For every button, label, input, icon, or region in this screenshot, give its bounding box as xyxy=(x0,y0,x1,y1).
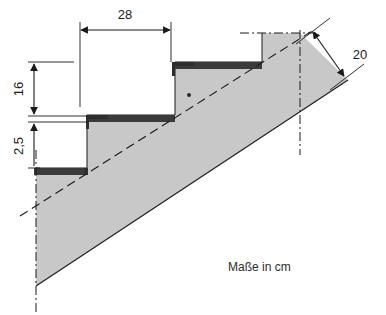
reference-point-marker xyxy=(187,93,191,97)
dimension-step-rise: 16 xyxy=(11,62,88,116)
riser-edge-3 xyxy=(172,62,175,76)
extension-line-20-upper xyxy=(296,18,330,44)
dimension-label-20: 20 xyxy=(353,47,367,62)
tread-step-1 xyxy=(34,168,87,175)
units-caption: Maße in cm xyxy=(228,260,291,274)
stair-section-drawing: 28 16 2,5 20 Maße in cm xyxy=(0,0,386,315)
dimension-label-25: 2,5 xyxy=(11,137,26,155)
riser-nosing-3 xyxy=(172,62,194,66)
concrete-body xyxy=(36,33,348,286)
dimension-label-16: 16 xyxy=(11,82,26,96)
dimension-tread-thickness: 2,5 xyxy=(11,122,88,168)
technical-drawing-canvas: 28 16 2,5 20 Maße in cm xyxy=(0,0,386,315)
dimension-tread-depth: 28 xyxy=(80,7,171,107)
stair-concrete-fill xyxy=(36,33,348,286)
riser-nosing-2 xyxy=(86,115,108,119)
dimension-label-28: 28 xyxy=(118,7,132,22)
